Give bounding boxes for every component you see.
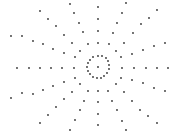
ray-dot (71, 42, 73, 44)
ray-dot (74, 56, 76, 58)
ray-dot (73, 12, 75, 14)
ring-dot (87, 62, 89, 64)
ray-dot (111, 100, 113, 102)
ray-dot (39, 10, 41, 12)
ray-dot (108, 43, 110, 45)
ray-dot (164, 42, 166, 44)
ray-dot (39, 122, 41, 124)
ray-dot (63, 81, 65, 83)
ray-dot (79, 50, 81, 52)
ring-dot (89, 73, 91, 75)
center-dot (97, 66, 99, 68)
ring-dot (101, 55, 103, 57)
ring-dot (89, 59, 91, 61)
ray-dot (97, 18, 99, 20)
ray-dot (97, 30, 99, 32)
ray-dot (47, 18, 49, 20)
ring-dot (97, 55, 99, 57)
dot-pattern-svg (0, 0, 174, 138)
ray-dot (61, 67, 63, 69)
ray-dot (167, 67, 169, 69)
ring-dot (106, 72, 108, 74)
ray-dot (131, 79, 133, 81)
ray-dot (63, 98, 65, 100)
ray-dot (10, 97, 12, 99)
ray-dot (79, 83, 81, 85)
ray-dot (123, 42, 125, 44)
ray-dot (153, 45, 155, 47)
ray-dot (87, 43, 89, 45)
ring-dot (92, 56, 94, 58)
radial-dot-pattern (0, 0, 174, 138)
ray-dot (120, 56, 122, 58)
ray-dot (156, 122, 158, 124)
ray-dot (132, 32, 134, 34)
ring-dot (87, 70, 89, 72)
ray-dot (97, 90, 99, 92)
ray-dot (125, 2, 127, 4)
ray-dot (121, 120, 123, 122)
ring-dot (103, 75, 105, 77)
ray-dot (69, 129, 71, 131)
ray-dot (10, 35, 12, 37)
ray-dot (156, 67, 158, 69)
ray-dot (116, 22, 118, 24)
ray-dot (21, 35, 23, 37)
ray-dot (123, 91, 125, 93)
ray-dot (116, 109, 118, 111)
ring-dot (108, 68, 110, 70)
ray-dot (32, 40, 34, 42)
ray-dot (69, 3, 71, 5)
ray-dot (148, 17, 150, 19)
ray-dot (42, 43, 44, 45)
ray-dot (47, 114, 49, 116)
ray-dot (97, 6, 99, 8)
ray-dot (82, 31, 84, 33)
ray-dot (120, 77, 122, 79)
ray-dot (78, 22, 80, 24)
ray-dot (71, 91, 73, 93)
ray-dot (97, 113, 99, 115)
ring-dot (92, 76, 94, 78)
ring-dot (107, 60, 109, 62)
ray-dot (145, 67, 147, 69)
ray-dot (55, 106, 57, 108)
ray-dot (115, 83, 117, 85)
ray-dot (52, 85, 54, 87)
ray-dot (39, 67, 41, 69)
ray-dot (73, 67, 75, 69)
ray-dot (87, 90, 89, 92)
ray-dot (28, 67, 30, 69)
ray-dot (142, 82, 144, 84)
ray-dot (153, 87, 155, 89)
ray-dot (63, 34, 65, 36)
ray-dot (125, 129, 127, 131)
ray-dot (147, 115, 149, 117)
ring-dot (108, 64, 110, 66)
ray-dot (97, 124, 99, 126)
ray-dot (83, 100, 85, 102)
ray-dot (97, 101, 99, 103)
ray-dot (74, 119, 76, 121)
ring-dot (105, 57, 107, 59)
ray-dot (112, 32, 114, 34)
ray-dot (131, 53, 133, 55)
ray-dot (156, 9, 158, 11)
ray-dot (139, 109, 141, 111)
ray-dot (121, 67, 123, 69)
ray-dot (115, 50, 117, 52)
ray-dot (142, 49, 144, 51)
ray-dot (97, 42, 99, 44)
ray-dot (133, 67, 135, 69)
ray-dot (16, 67, 18, 69)
ray-dot (32, 93, 34, 95)
ray-dot (107, 90, 109, 92)
ray-dot (131, 100, 133, 102)
ray-dot (74, 77, 76, 79)
ray-dot (79, 109, 81, 111)
ring-dot (96, 77, 98, 79)
ray-dot (121, 12, 123, 14)
ring-dot (86, 66, 88, 68)
ring-dot (100, 77, 102, 79)
ray-dot (52, 48, 54, 50)
